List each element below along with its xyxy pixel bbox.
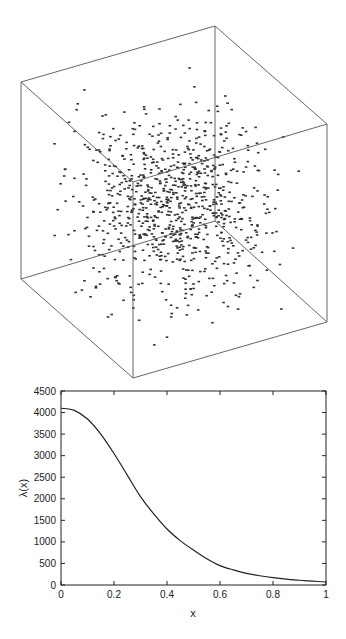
scatter-point	[204, 172, 207, 174]
scatter-point	[205, 199, 208, 201]
scatter-point	[221, 164, 224, 166]
scatter-point	[157, 210, 160, 212]
scatter-point	[215, 226, 218, 228]
scatter-point	[111, 187, 114, 189]
scatter-point	[194, 252, 197, 254]
scatter-point	[211, 176, 214, 178]
scatter-point	[116, 275, 119, 277]
scatter-point	[127, 222, 130, 224]
scatter-point	[108, 183, 111, 185]
scatter-point	[181, 218, 184, 220]
scatter-point	[158, 108, 161, 110]
scatter-point	[146, 184, 149, 186]
scatter-point	[152, 219, 155, 221]
scatter-point	[225, 174, 228, 176]
scatter-point	[161, 212, 164, 214]
scatter-point	[170, 316, 173, 318]
scatter-point	[180, 233, 183, 235]
scatter-point	[182, 169, 185, 171]
scatter-point	[141, 271, 144, 273]
scatter-point	[130, 159, 133, 161]
scatter-point	[120, 225, 123, 227]
scatter-point	[197, 309, 200, 311]
scatter-point	[191, 294, 194, 296]
scatter-point	[83, 280, 86, 282]
scatter-point	[184, 297, 187, 299]
scatter-point	[147, 229, 150, 231]
scatter-point	[135, 191, 138, 193]
scatter-point	[195, 196, 198, 198]
scatter-point	[117, 239, 120, 241]
scatter-point	[148, 192, 151, 194]
scatter-point	[138, 209, 141, 211]
scatter-point	[220, 200, 223, 202]
scatter-point	[123, 111, 126, 113]
scatter-point	[170, 197, 173, 199]
scatter-point	[166, 202, 169, 204]
scatter-point	[160, 259, 163, 261]
scatter-point	[198, 232, 201, 234]
scatter-point	[157, 226, 160, 228]
scatter-point	[187, 305, 190, 307]
scatter-point	[128, 169, 131, 171]
scatter-point	[203, 168, 206, 170]
scatter-point	[112, 220, 115, 222]
scatter-point	[168, 227, 171, 229]
scatter-point	[253, 287, 256, 289]
scatter-point	[198, 171, 201, 173]
scatter-point	[174, 185, 177, 187]
scatter-point	[203, 146, 206, 148]
scatter-point	[86, 146, 89, 148]
scatter-point	[157, 167, 160, 169]
x-axis-label: x	[190, 607, 196, 619]
scatter-point	[224, 196, 227, 198]
scatter-point	[166, 191, 169, 193]
scatter-point	[227, 248, 230, 250]
scatter-point	[139, 174, 142, 176]
scatter-point	[177, 161, 180, 163]
scatter-point	[254, 245, 257, 247]
scatter-point	[146, 217, 149, 219]
scatter-point	[274, 208, 277, 210]
scatter-point	[189, 178, 192, 180]
scatter-point	[230, 109, 233, 111]
scatter-point	[142, 209, 145, 211]
scatter-point	[220, 232, 223, 234]
scatter-point	[172, 226, 175, 228]
scatter-point	[103, 220, 106, 222]
scatter-point	[213, 285, 216, 287]
scatter-point	[59, 183, 62, 185]
scatter-point	[148, 226, 151, 228]
scatter-point	[232, 168, 235, 170]
scatter-point	[192, 222, 195, 224]
scatter-point	[181, 240, 184, 242]
scatter-point	[165, 181, 168, 183]
y-tick-label: 3500	[34, 429, 57, 440]
scatter-point	[141, 145, 144, 147]
scatter-point	[109, 223, 112, 225]
scatter-point	[199, 216, 202, 218]
scatter-point	[142, 222, 145, 224]
scatter-point	[139, 234, 142, 236]
scatter-point	[139, 236, 142, 238]
scatter-point	[113, 216, 116, 218]
scatter-point	[143, 216, 146, 218]
scatter-point	[108, 165, 111, 167]
scatter-point	[236, 182, 239, 184]
cube-edge-HE	[21, 279, 133, 378]
scatter-point	[190, 171, 193, 173]
scatter-point	[67, 234, 70, 236]
scatter-point	[103, 255, 106, 257]
scatter-point	[220, 127, 223, 129]
scatter-point	[134, 251, 137, 253]
scatter-point	[188, 245, 191, 247]
scatter-point	[223, 223, 226, 225]
scatter-point	[107, 203, 110, 205]
scatter-point	[225, 131, 228, 133]
scatter-point	[225, 210, 228, 212]
scatter-point	[246, 237, 249, 239]
scatter-point	[185, 293, 188, 295]
scatter-point	[158, 140, 161, 142]
scatter-point	[156, 202, 159, 204]
scatter-point	[168, 228, 171, 230]
